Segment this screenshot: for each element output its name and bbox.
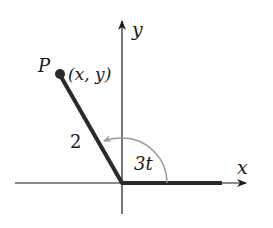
diagram-canvas: y x P (x, y) 2 3t <box>0 0 273 228</box>
length-label: 2 <box>70 131 81 152</box>
point-coords-label: (x, y) <box>68 64 111 84</box>
point-name-label: P <box>37 55 51 76</box>
angle-label: 3t <box>134 153 153 174</box>
x-axis-label: x <box>237 156 248 178</box>
point-p-dot <box>55 69 65 79</box>
y-axis-label: y <box>131 18 143 40</box>
terminal-ray <box>60 75 122 183</box>
